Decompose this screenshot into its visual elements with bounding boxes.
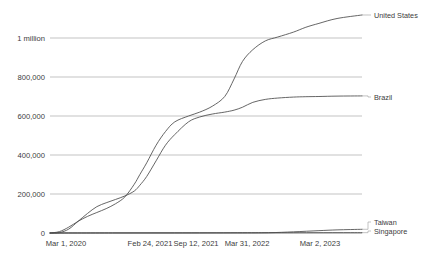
series-label: Singapore [374, 227, 407, 236]
y-axis-labels: 1 million800,000600,000400,000200,0000 [17, 34, 45, 238]
series-labels: United StatesBrazilTaiwanSingapore [374, 11, 418, 236]
chart-canvas: 1 million800,000600,000400,000200,0000 M… [0, 0, 424, 260]
y-axis-tick-label: 200,000 [18, 190, 45, 199]
series-lines [50, 15, 362, 233]
y-axis-tick-label: 1 million [17, 34, 45, 43]
x-axis-tick-label: Mar 31, 2022 [225, 239, 270, 248]
series-leader-line [362, 222, 371, 229]
series-line [50, 15, 362, 233]
series-label: Brazil [374, 93, 393, 102]
series-leader-line [362, 96, 371, 97]
series-label: Taiwan [374, 218, 397, 227]
y-axis-tick-label: 600,000 [18, 112, 45, 121]
series-leaders [362, 15, 371, 233]
y-axis-tick-label: 800,000 [18, 73, 45, 82]
series-label: United States [374, 11, 418, 20]
y-axis-tick-label: 400,000 [18, 151, 45, 160]
x-axis-tick-label: Mar 2, 2023 [300, 239, 341, 248]
x-axis-labels: Mar 1, 2020Feb 24, 2021Sep 12, 2021Mar 3… [46, 239, 341, 248]
y-axis-tick-label: 0 [41, 229, 45, 238]
x-axis-tick-label: Mar 1, 2020 [46, 239, 87, 248]
line-chart: 1 million800,000600,000400,000200,0000 M… [0, 0, 424, 260]
series-leader-line [362, 231, 371, 233]
gridlines [50, 38, 362, 233]
x-axis-tick-label: Feb 24, 2021 [128, 239, 173, 248]
x-axis-tick-label: Sep 12, 2021 [173, 239, 218, 248]
